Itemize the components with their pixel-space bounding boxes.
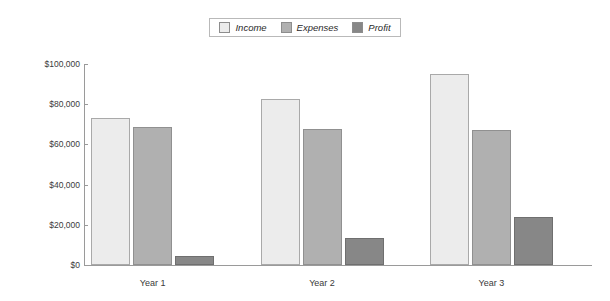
bar-profit-year-2[interactable]	[345, 238, 384, 265]
legend-label-expenses: Expenses	[297, 22, 339, 33]
chart-legend: Income Expenses Profit	[0, 18, 610, 37]
legend-swatch-profit	[352, 22, 363, 33]
legend-swatch-income	[219, 22, 230, 33]
y-axis-tick-label: $80,000	[49, 99, 84, 109]
legend-box: Income Expenses Profit	[209, 18, 400, 37]
y-axis-tick-mark	[84, 104, 88, 105]
plot-area: $0$20,000$40,000$60,000$80,000$100,000	[84, 64, 592, 265]
bar-profit-year-1[interactable]	[175, 256, 214, 265]
bar-expenses-year-3[interactable]	[472, 130, 511, 265]
bar-profit-year-3[interactable]	[514, 217, 553, 265]
y-axis-tick-mark	[84, 144, 88, 145]
bar-expenses-year-2[interactable]	[303, 129, 342, 265]
legend-item-profit[interactable]: Profit	[352, 22, 390, 33]
x-axis-line	[84, 265, 592, 266]
y-axis-tick-label: $40,000	[49, 179, 84, 189]
bar-chart: Income Expenses Profit $0$20,000$40,000$…	[0, 0, 610, 301]
y-axis-tick-label: $100,000	[45, 59, 84, 69]
y-axis-tick-mark	[84, 265, 88, 266]
bar-income-year-2[interactable]	[261, 99, 300, 265]
y-axis-tick-mark	[84, 185, 88, 186]
bar-group	[261, 64, 384, 265]
bar-group	[91, 64, 214, 265]
bar-income-year-3[interactable]	[430, 74, 469, 265]
legend-item-income[interactable]: Income	[219, 22, 266, 33]
y-axis-tick-mark	[84, 64, 88, 65]
legend-item-expenses[interactable]: Expenses	[281, 22, 339, 33]
y-axis-tick-label: $20,000	[49, 219, 84, 229]
legend-label-income: Income	[235, 22, 266, 33]
x-axis-label: Year 2	[309, 278, 335, 288]
y-axis-tick-label: $0	[71, 260, 84, 270]
x-axis-label: Year 3	[478, 278, 504, 288]
legend-label-profit: Profit	[368, 22, 390, 33]
legend-swatch-expenses	[281, 22, 292, 33]
y-axis-tick-label: $60,000	[49, 139, 84, 149]
x-axis-label: Year 1	[140, 278, 166, 288]
bar-income-year-1[interactable]	[91, 118, 130, 265]
y-axis-tick-mark	[84, 225, 88, 226]
bar-expenses-year-1[interactable]	[133, 127, 172, 265]
bar-group	[430, 64, 553, 265]
